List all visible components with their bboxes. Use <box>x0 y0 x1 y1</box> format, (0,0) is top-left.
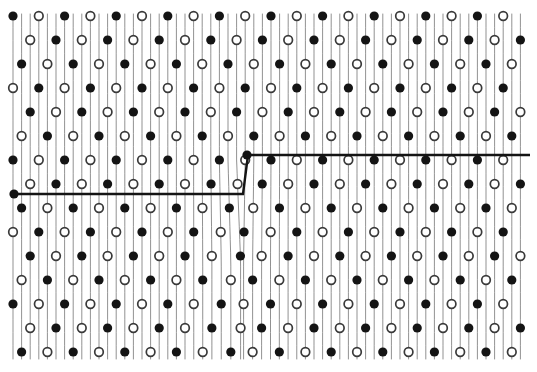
atom-open <box>508 348 517 357</box>
atom-open <box>121 132 130 141</box>
atom-open <box>208 252 217 261</box>
atom-filled <box>69 203 78 212</box>
atom-filled <box>516 323 525 332</box>
atom-filled <box>421 299 430 308</box>
atom-filled <box>309 323 318 332</box>
atom-filled <box>206 179 215 188</box>
atom-open <box>112 84 121 93</box>
atom-filled <box>507 275 516 284</box>
atom-open <box>181 180 190 189</box>
atom-open <box>26 36 35 45</box>
atom-filled <box>112 299 121 308</box>
atom-open <box>422 228 431 237</box>
atom-filled <box>284 107 293 116</box>
atom-filled <box>17 347 26 356</box>
atom-open <box>95 60 104 69</box>
atom-filled <box>241 83 250 92</box>
atom-open <box>198 348 207 357</box>
atom-open <box>422 84 431 93</box>
edge-dislocation-figure: Edge dislocation in a crystal lattice Ar… <box>0 0 537 372</box>
atom-open <box>164 228 173 237</box>
atom-open <box>404 60 413 69</box>
atom-filled <box>34 83 43 92</box>
atom-open <box>387 180 396 189</box>
atom-open <box>9 228 18 237</box>
atom-open <box>78 180 87 189</box>
atom-filled <box>60 299 69 308</box>
atom-open <box>413 108 422 117</box>
atom-filled <box>17 59 26 68</box>
atom-open <box>396 156 405 165</box>
atom-open <box>155 252 164 261</box>
atom-open <box>248 348 257 357</box>
atom-filled <box>387 251 396 260</box>
atom-open <box>344 156 353 165</box>
atom-filled <box>456 275 465 284</box>
atom-open <box>146 348 155 357</box>
atom-open <box>284 324 293 333</box>
atom-open <box>490 180 499 189</box>
atom-open <box>69 132 78 141</box>
atom-open <box>112 228 121 237</box>
atom-open <box>35 12 44 21</box>
atom-open <box>138 156 147 165</box>
atom-filled <box>103 35 112 44</box>
atom-open <box>227 276 236 285</box>
atom-open <box>189 12 198 21</box>
atom-open <box>78 36 87 45</box>
atom-open <box>198 60 207 69</box>
atom-open <box>404 348 413 357</box>
atom-filled <box>499 83 508 92</box>
atom-open <box>249 204 258 213</box>
atom-open <box>490 324 499 333</box>
atom-filled <box>8 155 17 164</box>
atom-open <box>284 180 293 189</box>
atom-open <box>78 324 87 333</box>
atom-open <box>439 36 448 45</box>
atom-filled <box>86 83 95 92</box>
atom-filled <box>490 251 499 260</box>
atom-open <box>508 204 517 213</box>
atom-filled <box>327 347 336 356</box>
atom-open <box>275 132 284 141</box>
atom-filled <box>60 11 69 20</box>
atom-open <box>318 84 327 93</box>
atom-open <box>138 12 147 21</box>
atom-filled <box>370 11 379 20</box>
atom-open <box>456 204 465 213</box>
atom-open <box>266 228 275 237</box>
atom-filled <box>103 323 112 332</box>
atom-open <box>129 180 138 189</box>
atom-open <box>69 276 78 285</box>
atom-filled <box>43 275 52 284</box>
atom-open <box>490 36 499 45</box>
atom-filled <box>163 155 172 164</box>
atom-open <box>465 252 474 261</box>
atom-open <box>370 228 379 237</box>
atom-filled <box>481 347 490 356</box>
atom-filled <box>430 59 439 68</box>
atom-filled <box>301 131 310 140</box>
atom-filled <box>77 107 86 116</box>
atom-filled <box>464 35 473 44</box>
atom-filled <box>223 59 232 68</box>
atom-filled <box>86 227 95 236</box>
atom-open <box>361 252 370 261</box>
atom-open <box>456 348 465 357</box>
atom-open <box>103 108 112 117</box>
atom-filled <box>378 347 387 356</box>
atom-filled <box>207 323 216 332</box>
atom-open <box>129 36 138 45</box>
atom-open <box>95 204 104 213</box>
atom-open <box>447 156 456 165</box>
atom-filled <box>438 251 447 260</box>
atom-filled <box>129 107 138 116</box>
atom-filled <box>206 35 215 44</box>
atom-filled <box>8 11 17 20</box>
atom-open <box>293 12 302 21</box>
atom-filled <box>292 83 301 92</box>
atom-open <box>447 300 456 309</box>
atom-open <box>396 12 405 21</box>
atom-filled <box>198 131 207 140</box>
atom-filled <box>421 11 430 20</box>
